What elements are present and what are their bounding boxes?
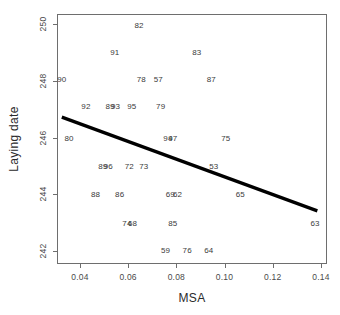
data-point-label: 87 xyxy=(207,75,216,84)
x-tick-mark xyxy=(176,264,177,268)
y-tick-mark xyxy=(53,251,57,252)
data-point-label: 85 xyxy=(168,218,177,227)
data-point-label: 82 xyxy=(134,21,143,30)
data-point-label: 96 xyxy=(104,161,113,170)
data-point-label: 63 xyxy=(310,218,319,227)
y-tick-label: 248 xyxy=(38,73,48,88)
y-tick-label: 246 xyxy=(38,130,48,145)
data-point-label: 86 xyxy=(115,190,124,199)
data-point-label: 91 xyxy=(110,48,119,57)
y-tick-label: 250 xyxy=(38,17,48,32)
x-tick-label: 0.06 xyxy=(119,272,136,282)
x-tick-label: 0.08 xyxy=(168,272,185,282)
x-tick-label: 0.04 xyxy=(71,272,88,282)
x-tick-label: 0.10 xyxy=(216,272,233,282)
x-axis-title: MSA xyxy=(179,291,206,305)
data-point-label: 88 xyxy=(91,190,100,199)
data-point-label: 80 xyxy=(64,133,73,142)
data-point-label: 59 xyxy=(161,245,170,254)
data-point-label: 57 xyxy=(154,75,163,84)
x-tick-mark xyxy=(225,264,226,268)
x-tick-label: 0.14 xyxy=(312,272,329,282)
y-axis-title: Laying date xyxy=(7,106,21,171)
data-point-label: 64 xyxy=(204,245,213,254)
data-point-label: 93 xyxy=(111,102,120,111)
data-point-label: 92 xyxy=(81,102,90,111)
data-point-label: 73 xyxy=(139,161,148,170)
data-point-label: 65 xyxy=(236,190,245,199)
y-tick-label: 244 xyxy=(38,187,48,202)
x-tick-mark xyxy=(80,264,81,268)
data-point-label: 68 xyxy=(128,218,137,227)
y-tick-label: 242 xyxy=(38,244,48,259)
x-tick-mark xyxy=(273,264,274,268)
data-point-label: 97 xyxy=(168,133,177,142)
data-point-label: 83 xyxy=(192,48,201,57)
x-tick-label: 0.12 xyxy=(264,272,281,282)
data-point-label: 62 xyxy=(173,190,182,199)
scatter-plot-figure: 0.040.060.080.100.120.14 242244246248250… xyxy=(0,0,340,315)
x-tick-mark xyxy=(128,264,129,268)
y-tick-mark xyxy=(53,24,57,25)
data-point-label: 78 xyxy=(137,75,146,84)
data-point-label: 72 xyxy=(125,161,134,170)
data-point-label: 95 xyxy=(127,102,136,111)
data-point-label: 90 xyxy=(57,75,66,84)
x-tick-mark xyxy=(321,264,322,268)
data-point-label: 79 xyxy=(156,102,165,111)
data-point-label: 75 xyxy=(221,133,230,142)
data-point-label: 53 xyxy=(209,161,218,170)
y-tick-mark xyxy=(53,194,57,195)
y-tick-mark xyxy=(53,138,57,139)
data-point-label: 76 xyxy=(183,245,192,254)
